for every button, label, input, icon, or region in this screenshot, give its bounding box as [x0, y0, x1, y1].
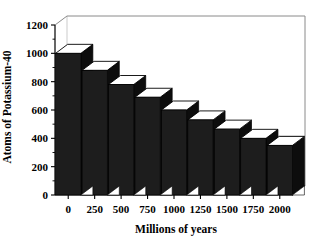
bar-front-face: [214, 129, 239, 195]
bar-front-face: [82, 70, 107, 195]
x-tick-label: 0: [65, 203, 71, 215]
y-tick-label: 1200: [26, 19, 49, 31]
bar-front-face: [241, 138, 266, 195]
potassium-decay-bar-chart: 020040060080010001200 025050075010001250…: [0, 0, 317, 240]
x-tick-label-group: 025050075010001250150017502000: [65, 203, 291, 215]
bar-group: [56, 44, 305, 195]
y-tick-label: 600: [32, 104, 49, 116]
x-tick-label: 750: [139, 203, 156, 215]
x-tick-label: 2000: [269, 203, 292, 215]
bar-side-face: [292, 136, 304, 195]
bar-front-face: [56, 53, 81, 195]
y-tick-label: 200: [32, 161, 49, 173]
y-tick-label: 0: [43, 189, 49, 201]
y-tick-label: 800: [32, 76, 49, 88]
chart-container: 020040060080010001200 025050075010001250…: [0, 0, 317, 240]
bar-front-face: [267, 145, 292, 195]
x-axis-title: Millions of years: [135, 223, 217, 236]
bar-front-face: [161, 110, 186, 195]
bar-front-face: [188, 120, 213, 195]
y-axis-title: Atoms of Potassium-40: [1, 50, 13, 163]
x-tick-label: 1500: [216, 203, 239, 215]
x-tick-label: 1000: [163, 203, 186, 215]
x-tick-label: 500: [113, 203, 130, 215]
x-tick-label: 1250: [189, 203, 212, 215]
bar-front-face: [135, 97, 160, 195]
x-tick-group: [68, 195, 280, 199]
bar-front-face: [108, 85, 133, 196]
x-tick-label: 250: [86, 203, 103, 215]
x-tick-label: 1750: [242, 203, 265, 215]
y-tick-label-group: 020040060080010001200: [26, 19, 49, 201]
y-tick-label: 400: [32, 132, 49, 144]
y-tick-label: 1000: [26, 47, 49, 59]
